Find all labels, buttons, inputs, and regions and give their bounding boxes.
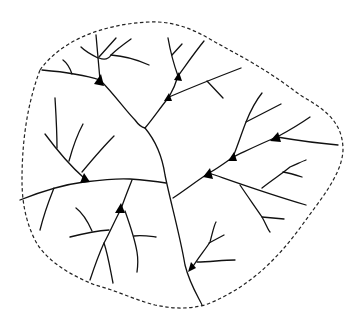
branch [209, 173, 306, 205]
twig [134, 236, 156, 237]
branch [121, 180, 132, 209]
junction-node-icon [270, 132, 281, 142]
branch [125, 211, 138, 272]
twig [172, 44, 182, 55]
twig [104, 243, 113, 283]
twig [233, 93, 262, 157]
twig [70, 230, 109, 237]
twig [277, 137, 338, 145]
twig [197, 260, 235, 262]
twig [81, 47, 98, 58]
twig [207, 81, 223, 98]
twig [246, 104, 281, 122]
diagram-container: Dendritic branching network enclosed by … [0, 0, 361, 327]
twig [262, 217, 284, 219]
branch-right [173, 117, 310, 198]
twig [82, 136, 114, 172]
junction-node-icon [115, 203, 125, 213]
twig [283, 172, 302, 177]
twig [40, 188, 54, 230]
junction-node-icon [80, 173, 90, 183]
main-trunk [100, 80, 202, 305]
junction-node-icon [174, 72, 182, 81]
drainage-network-diagram [0, 0, 361, 327]
twig [168, 38, 178, 76]
branch-center-up [145, 76, 178, 128]
twig [262, 160, 306, 188]
twig [55, 98, 57, 148]
twig [178, 41, 204, 76]
junction-node-icon [203, 168, 213, 179]
branch [169, 68, 241, 97]
twig [99, 39, 131, 59]
twig [76, 208, 92, 231]
twig [99, 38, 116, 57]
twig [111, 55, 149, 65]
branch [45, 134, 84, 178]
branch [90, 209, 121, 280]
junction-node-icon [228, 152, 237, 161]
branch-left [20, 179, 166, 200]
twig [69, 124, 83, 161]
